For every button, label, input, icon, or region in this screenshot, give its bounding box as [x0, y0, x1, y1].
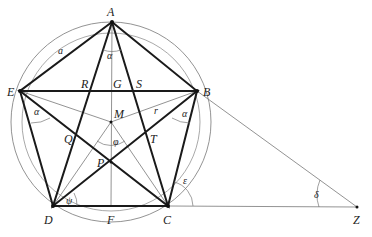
label-alpha-left: α: [34, 106, 40, 117]
label-P: P: [96, 156, 105, 170]
label-S: S: [136, 77, 142, 91]
label-C: C: [163, 213, 172, 227]
label-epsilon: ε: [183, 175, 187, 186]
label-E: E: [6, 85, 15, 99]
pentagon-diagram: A B C D E M G R S Q T P F Z α α α φ ψ ε …: [0, 0, 372, 237]
label-A: A: [106, 5, 115, 19]
label-alpha-right: α: [182, 108, 188, 119]
label-Q: Q: [64, 132, 73, 146]
label-R: R: [80, 77, 89, 91]
label-G: G: [113, 77, 122, 91]
arc-alpha-left: [31, 118, 50, 123]
label-D: D: [43, 213, 53, 227]
label-side-a: a: [58, 45, 63, 56]
line-CZ: [168, 206, 357, 207]
label-F: F: [106, 213, 115, 227]
radius-MC: [111, 122, 168, 206]
label-radius-r: r: [154, 105, 158, 116]
arc-alpha-right: [172, 118, 190, 123]
label-Z: Z: [353, 213, 360, 227]
label-phi: φ: [113, 136, 119, 147]
label-psi: ψ: [66, 195, 73, 206]
label-B: B: [203, 85, 211, 99]
vertex-dots: [18, 20, 359, 209]
label-T: T: [150, 132, 158, 146]
label-M: M: [113, 107, 125, 121]
label-alpha-top: α: [107, 50, 113, 61]
label-delta: δ: [314, 189, 319, 200]
line-BZ: [197, 91, 357, 207]
